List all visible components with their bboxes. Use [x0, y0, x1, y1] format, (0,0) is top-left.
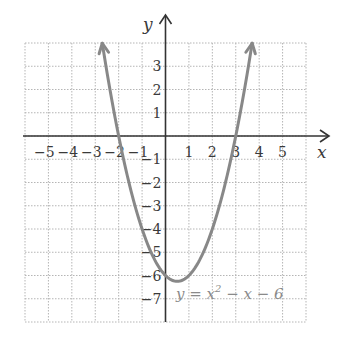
- y-tick-label: −2: [141, 175, 162, 191]
- x-tick-label: 4: [255, 144, 264, 160]
- y-tick-label: −1: [141, 151, 162, 167]
- equation-main: y = x: [175, 285, 216, 303]
- equation-superscript: 2: [214, 283, 221, 294]
- y-tick-label: −7: [141, 291, 162, 307]
- x-axis-label: x: [317, 142, 327, 162]
- x-tick-label: −3: [81, 144, 102, 160]
- x-tick-label: 2: [208, 144, 217, 160]
- equation-tail: − x − 6: [221, 285, 284, 303]
- parabola-chart: −5−4−3−2−112345321−1−2−3−4−5−6−7 x y y =…: [0, 0, 347, 339]
- parabola-curve: [102, 43, 252, 281]
- x-tick-label: 5: [278, 144, 287, 160]
- equation-label: y = x2 − x − 6: [175, 283, 284, 303]
- y-tick-label: −6: [141, 268, 162, 284]
- y-tick-label: 1: [153, 105, 162, 121]
- y-tick-label: 3: [153, 58, 162, 74]
- x-tick-label: 1: [184, 144, 193, 160]
- x-tick-label: −5: [34, 144, 55, 160]
- y-axis-label: y: [142, 14, 153, 34]
- y-tick-label: −3: [141, 198, 162, 214]
- x-tick-label: −4: [58, 144, 79, 160]
- curve-arrowheads: [99, 43, 255, 54]
- y-tick-label: 2: [153, 82, 162, 98]
